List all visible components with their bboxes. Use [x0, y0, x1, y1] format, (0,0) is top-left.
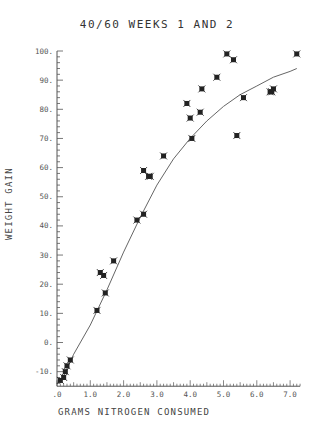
x-tick-label: 6.0	[250, 390, 264, 399]
data-point	[102, 289, 109, 296]
data-point	[133, 217, 140, 224]
data-point	[240, 94, 247, 101]
data-point	[230, 56, 237, 63]
y-tick-label: 10.	[39, 309, 53, 318]
data-point	[110, 257, 117, 264]
axes: -10.0.10.20.30.40.50.60.70.80.90.100..01…	[35, 47, 300, 400]
data-point	[188, 135, 195, 142]
y-tick-label: 40.	[39, 221, 53, 230]
x-tick-label: 3.0	[150, 390, 164, 399]
data-point	[270, 85, 277, 92]
data-point	[293, 50, 300, 57]
data-point	[100, 272, 107, 279]
data-point	[60, 374, 67, 381]
y-tick-label: 70.	[39, 134, 53, 143]
data-point	[160, 152, 167, 159]
x-tick-label: 7.0	[283, 390, 297, 399]
data-point	[93, 307, 100, 314]
data-point	[213, 74, 220, 81]
y-tick-label: 90.	[39, 76, 53, 85]
y-tick-label: 30.	[39, 251, 53, 260]
data-point	[187, 115, 194, 122]
y-tick-label: -10.	[35, 367, 53, 376]
data-point	[67, 356, 74, 363]
data-point	[183, 100, 190, 107]
data-point	[197, 109, 204, 116]
data-point	[233, 132, 240, 139]
x-tick-label: 1.0	[84, 390, 98, 399]
y-tick-label: 20.	[39, 280, 53, 289]
y-tick-label: 60.	[39, 163, 53, 172]
data-point	[140, 211, 147, 218]
data-point	[198, 85, 205, 92]
y-tick-label: 50.	[39, 192, 53, 201]
data-point	[223, 50, 230, 57]
x-tick-label: 5.0	[217, 390, 231, 399]
data-point	[62, 368, 69, 375]
x-tick-label: 4.0	[183, 390, 197, 399]
x-tick-label: .0	[52, 390, 62, 399]
scatter-plot: -10.0.10.20.30.40.50.60.70.80.90.100..01…	[0, 0, 314, 437]
data-point	[147, 173, 154, 180]
data-point	[140, 167, 147, 174]
fitted-curve	[60, 69, 296, 384]
y-tick-label: 100.	[35, 47, 53, 56]
y-tick-label: 80.	[39, 105, 53, 114]
y-tick-label: 0.	[44, 338, 53, 347]
x-tick-label: 2.0	[117, 390, 131, 399]
data-points	[57, 50, 300, 383]
